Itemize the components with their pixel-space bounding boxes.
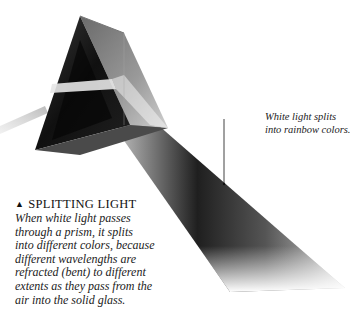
caption-line: into different colors, because <box>15 239 215 253</box>
callout-line: White light splits <box>265 110 352 123</box>
caption-line: refracted (bent) to different <box>15 266 215 280</box>
caption-line: through a prism, it splits <box>15 226 215 240</box>
callout-label: White light splits into rainbow colors. <box>265 110 352 136</box>
caption: ▲SPLITTING LIGHT When white light passes… <box>15 197 215 307</box>
callout-line: into rainbow colors. <box>265 123 352 136</box>
incoming-light-beam <box>0 106 48 134</box>
caption-line: air into the solid glass. <box>15 294 215 308</box>
caption-line: different wavelengths are <box>15 253 215 267</box>
caption-line: extents as they pass from the <box>15 280 215 294</box>
caption-body: When white light passes through a prism,… <box>15 212 215 307</box>
caption-line: When white light passes <box>15 212 215 226</box>
caption-title: ▲SPLITTING LIGHT <box>15 197 215 212</box>
triangle-marker-icon: ▲ <box>15 199 24 209</box>
